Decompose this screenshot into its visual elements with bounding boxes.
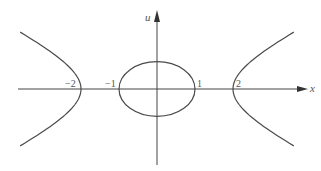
x-axis-arrowhead-icon: [297, 86, 308, 92]
u-axis-label: u: [145, 11, 151, 23]
tick-label-neg2: −2: [65, 78, 76, 89]
tick-label-neg1: −1: [105, 78, 116, 89]
x-axis-label: x: [309, 82, 315, 94]
tick-label-1: 1: [197, 78, 202, 89]
diagram-canvas: x u −2 −1 1 2: [0, 0, 321, 171]
tick-label-2: 2: [236, 78, 241, 89]
u-axis-arrowhead-icon: [154, 10, 160, 22]
phase-diagram: x u −2 −1 1 2: [0, 0, 321, 171]
